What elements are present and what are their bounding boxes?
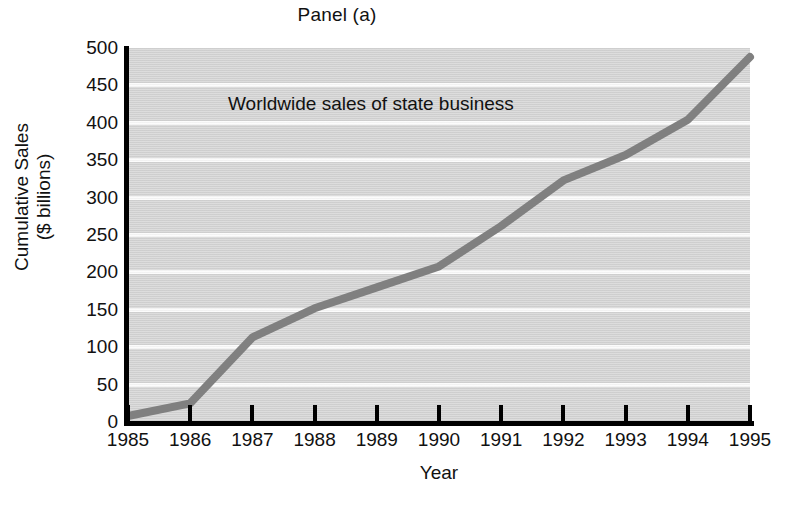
x-axis-tick — [313, 405, 317, 422]
y-axis-tick-label: 350 — [62, 150, 118, 169]
x-axis-tick-label: 1994 — [656, 430, 720, 450]
x-axis-tick — [499, 405, 503, 422]
y-axis-tick-label: 250 — [62, 225, 118, 244]
x-axis-tick-label: 1985 — [96, 430, 160, 450]
series-annotation: Worldwide sales of state business — [228, 93, 514, 115]
y-axis-title-line2: ($ billions) — [33, 102, 55, 292]
x-axis-tick-label: 1989 — [345, 430, 409, 450]
x-axis-tick-label: 1991 — [469, 430, 533, 450]
x-axis-tick — [126, 405, 130, 422]
x-axis-tick — [748, 405, 752, 422]
x-axis-tick — [624, 405, 628, 422]
x-axis-tick-label: 1986 — [158, 430, 222, 450]
x-axis-tick — [437, 405, 441, 422]
y-axis-tick-label: 450 — [62, 75, 118, 94]
x-axis-tick — [686, 405, 690, 422]
y-axis-tick-label: 500 — [62, 38, 118, 57]
x-axis-tick-label: 1992 — [531, 430, 595, 450]
x-axis-tick — [561, 405, 565, 422]
y-axis-title: Cumulative Sales ($ billions) — [11, 102, 55, 292]
chart-figure: Panel (a) 050100150200250300350400450500… — [0, 0, 798, 506]
y-axis-line — [124, 46, 129, 424]
y-axis-title-line1: Cumulative Sales — [11, 102, 33, 292]
y-axis-tick-label: 400 — [62, 113, 118, 132]
chart-title: Panel (a) — [0, 4, 798, 26]
x-axis-tick-label: 1990 — [407, 430, 471, 450]
y-axis-tick-label: 300 — [62, 188, 118, 207]
y-axis-tick-label: 100 — [62, 337, 118, 356]
x-axis-tick-label: 1988 — [283, 430, 347, 450]
x-axis-tick-label: 1995 — [718, 430, 782, 450]
chart-title-text: Panel (a) — [298, 4, 377, 26]
y-axis-tick-label: 150 — [62, 300, 118, 319]
y-axis-tick-label: 50 — [62, 375, 118, 394]
x-axis-title: Year — [128, 462, 750, 484]
x-axis-tick-label: 1993 — [594, 430, 658, 450]
x-axis-tick-label: 1987 — [220, 430, 284, 450]
x-axis-tick — [188, 405, 192, 422]
y-axis-tick-label: 200 — [62, 262, 118, 281]
x-axis-tick — [250, 405, 254, 422]
x-axis-tick — [375, 405, 379, 422]
